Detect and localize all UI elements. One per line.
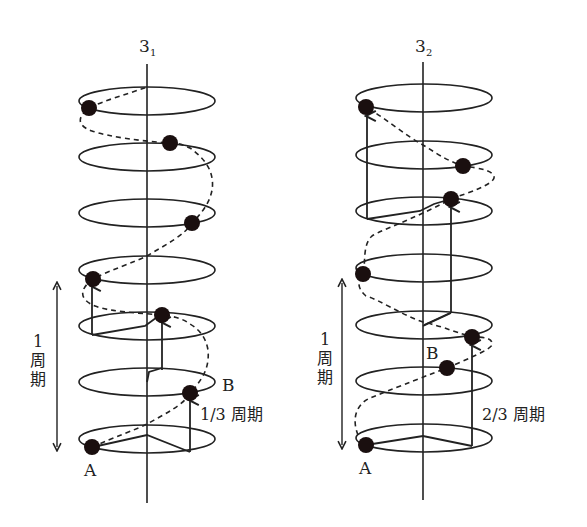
- point-a-label-left: A: [83, 460, 97, 480]
- axis-subscript-left: 1: [150, 47, 156, 58]
- atom-a: [358, 437, 374, 453]
- point-b-label-left: B: [222, 375, 235, 395]
- atom: [154, 307, 170, 323]
- period-char-1-left: 周: [30, 351, 46, 370]
- axis-label-left: 3: [139, 36, 150, 56]
- period-number-right: 1: [320, 330, 330, 349]
- screw-axis-3-2: 3 2: [317, 36, 545, 500]
- screw-axis-diagram: 3 1: [0, 0, 587, 527]
- atom: [81, 100, 97, 116]
- step-label-right: 2/3 周期: [482, 405, 545, 424]
- period-char-2-left: 期: [30, 370, 46, 389]
- atom: [443, 191, 459, 207]
- axis-subscript-right: 2: [426, 47, 432, 58]
- atom: [162, 135, 178, 151]
- atom: [355, 266, 371, 282]
- period-char-2-right: 期: [317, 368, 333, 387]
- atom: [439, 360, 455, 376]
- axis-label-right: 3: [415, 36, 426, 56]
- atom-b: [182, 385, 198, 401]
- atom: [358, 99, 374, 115]
- atoms-right: [355, 99, 480, 453]
- atom-b: [464, 329, 480, 345]
- period-char-1-right: 周: [317, 349, 333, 368]
- screw-axis-3-1: 3 1: [30, 36, 263, 503]
- step-label-left: 1/3 周期: [200, 405, 263, 424]
- atom: [85, 271, 101, 287]
- atom-a: [84, 439, 100, 455]
- atom: [455, 158, 471, 174]
- helix-path-right: [355, 107, 494, 435]
- atom: [184, 215, 200, 231]
- point-a-label-right: A: [358, 458, 372, 478]
- period-number-left: 1: [33, 332, 43, 351]
- point-b-label-right: B: [426, 343, 439, 363]
